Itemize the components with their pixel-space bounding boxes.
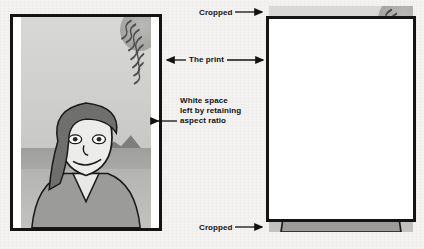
label-cropped-top: Cropped <box>199 8 233 18</box>
diagram-canvas: Cropped Cropped The print White space le… <box>0 0 424 249</box>
label-cropped-bottom: Cropped <box>199 223 233 233</box>
sun-rays-icon <box>91 19 148 91</box>
label-the-print: The print <box>189 55 224 65</box>
right-print-frame <box>266 16 416 222</box>
woman-portrait-figure <box>21 97 151 228</box>
label-white-space: White space left by retaining aspect rat… <box>180 96 241 126</box>
left-photo-image <box>21 17 151 228</box>
